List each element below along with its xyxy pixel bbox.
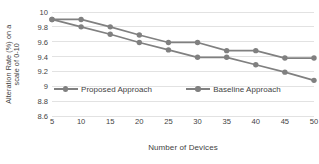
x-axis-tick-label: 30 <box>193 117 201 126</box>
x-axis-tick-label: 10 <box>77 117 85 126</box>
x-axis-title: Number of Devices <box>52 143 314 152</box>
x-axis-tick-label: 15 <box>106 117 114 126</box>
data-point-marker[interactable] <box>311 55 316 60</box>
y-axis-tick-labels: 109.89.69.49.298.88.6 <box>26 12 48 116</box>
y-axis-tick-label: 9.8 <box>37 22 48 31</box>
y-axis-tick-label: 9 <box>44 82 48 91</box>
y-axis-tick-label: 9.4 <box>37 52 48 61</box>
y-axis-tick-label: 9.6 <box>37 37 48 46</box>
data-point-marker[interactable] <box>137 40 142 45</box>
legend-line-marker-icon <box>54 84 78 94</box>
data-point-marker[interactable] <box>224 55 229 60</box>
data-point-marker[interactable] <box>78 17 83 22</box>
y-axis-tick-label: 8.8 <box>37 97 48 106</box>
y-axis-tick-label: 10 <box>40 8 48 17</box>
data-point-marker[interactable] <box>49 17 54 22</box>
data-point-marker[interactable] <box>108 32 113 37</box>
plot-svg <box>52 12 314 116</box>
x-axis-tick-labels: 5101520253035404550 <box>52 117 314 131</box>
chart-container: scale of 0-10 Alteration Rate (%) on a 1… <box>0 0 319 164</box>
data-point-marker[interactable] <box>195 55 200 60</box>
x-axis-tick-label: 25 <box>164 117 172 126</box>
x-axis-tick-label: 20 <box>135 117 143 126</box>
series-line-1 <box>52 19 314 58</box>
data-point-marker[interactable] <box>253 48 258 53</box>
chart-legend: Proposed Approach Baseline Approach <box>54 82 304 96</box>
legend-item-baseline-approach[interactable]: Baseline Approach <box>186 84 281 94</box>
data-point-marker[interactable] <box>137 32 142 37</box>
data-point-marker[interactable] <box>78 24 83 29</box>
y-axis-title-line-1: Alteration Rate (%) on a <box>6 24 14 103</box>
data-point-marker[interactable] <box>282 55 287 60</box>
y-axis-title: scale of 0-10 Alteration Rate (%) on a <box>0 0 28 128</box>
legend-label-baseline-approach: Baseline Approach <box>213 85 281 94</box>
legend-label-proposed-approach: Proposed Approach <box>81 85 152 94</box>
y-axis-tick-label: 9.2 <box>37 67 48 76</box>
x-axis-tick-label: 35 <box>222 117 230 126</box>
legend-line-marker-icon <box>186 84 210 94</box>
data-point-marker[interactable] <box>282 69 287 74</box>
data-point-marker[interactable] <box>195 40 200 45</box>
y-axis-title-line-2: scale of 0-10 <box>14 43 22 85</box>
x-axis-tick-label: 45 <box>281 117 289 126</box>
plot-area <box>52 12 314 116</box>
data-point-marker[interactable] <box>166 47 171 52</box>
data-point-marker[interactable] <box>108 24 113 29</box>
y-axis-tick-label: 8.6 <box>37 112 48 121</box>
data-point-marker[interactable] <box>311 78 316 83</box>
x-axis-tick-label: 5 <box>50 117 54 126</box>
legend-item-proposed-approach[interactable]: Proposed Approach <box>54 84 152 94</box>
data-point-marker[interactable] <box>224 48 229 53</box>
data-point-marker[interactable] <box>166 40 171 45</box>
data-point-marker[interactable] <box>253 62 258 67</box>
x-axis-tick-label: 50 <box>310 117 318 126</box>
x-axis-tick-label: 40 <box>252 117 260 126</box>
